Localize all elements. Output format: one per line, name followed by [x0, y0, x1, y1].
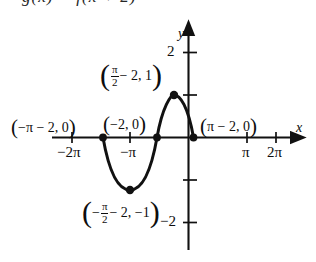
x-axis-label: x	[296, 121, 302, 135]
point-mid-intercept	[153, 134, 161, 142]
label-maximum-text: − 2, 1	[120, 68, 152, 83]
point-right-intercept	[190, 134, 198, 142]
y-tick-label-2: 2	[167, 44, 175, 59]
x-tick-label--2pi: −2π	[57, 145, 81, 160]
fraction-numerator: π	[101, 201, 109, 214]
point-maximum	[170, 91, 178, 99]
label-minimum-text: − 2, −1	[109, 205, 149, 220]
label-minimum-sign: −	[92, 205, 100, 220]
graph-figure: g(x) = f(x + 2)	[0, 0, 316, 262]
fraction-numerator: π	[111, 64, 119, 77]
label-right-intercept-text: π − 2, 0	[207, 119, 250, 134]
label-mid-intercept: (−2, 0)	[103, 118, 146, 132]
label-left-intercept-text: −π − 2, 0	[18, 120, 69, 135]
point-minimum	[126, 186, 134, 194]
fraction-denominator: 2	[111, 77, 119, 89]
fraction-pi-over-2: π2	[101, 201, 109, 225]
fraction-denominator: 2	[101, 214, 109, 226]
label-left-intercept: (−π − 2, 0)	[11, 121, 76, 135]
label-maximum: (π2− 2, 1)	[100, 65, 162, 89]
fraction-pi-over-2: π2	[111, 64, 119, 88]
label-right-intercept: (π − 2, 0)	[200, 120, 257, 134]
label-minimum: (−π2− 2, −1)	[82, 202, 160, 226]
y-tick-label--2: −2	[160, 214, 176, 229]
sine-curve	[103, 95, 194, 190]
x-tick-label--pi: −π	[120, 145, 136, 160]
y-axis-label: y	[178, 27, 184, 41]
x-tick-label-pi: π	[242, 145, 250, 160]
x-tick-label-2pi: 2π	[267, 145, 282, 160]
label-mid-intercept-text: −2, 0	[110, 117, 139, 132]
